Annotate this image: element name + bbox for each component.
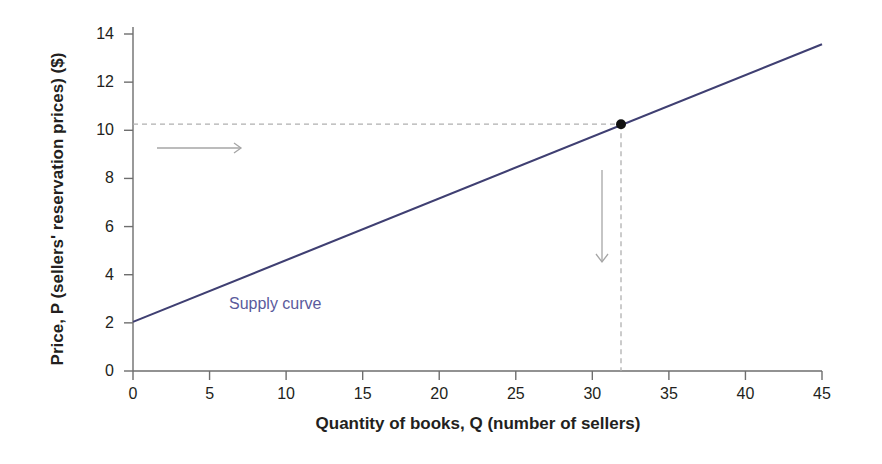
xtick-label-15: 15: [343, 385, 383, 403]
xtick-label-35: 35: [649, 385, 689, 403]
y-axis-ticks: [124, 34, 133, 371]
xtick-label-5: 5: [190, 385, 230, 403]
ytick-label-12: 12: [74, 73, 114, 91]
x-axis-ticks: [133, 371, 822, 380]
ytick-label-4: 4: [74, 266, 114, 284]
supply-curve-line: [133, 44, 822, 322]
supply-curve-label: Supply curve: [229, 295, 322, 313]
xtick-label-25: 25: [496, 385, 536, 403]
x-axis-title: Quantity of books, Q (number of sellers): [133, 414, 823, 434]
xtick-label-0: 0: [113, 385, 153, 403]
ytick-label-8: 8: [74, 169, 114, 187]
xtick-label-10: 10: [266, 385, 306, 403]
downward-arrow: [596, 170, 608, 262]
xtick-label-20: 20: [419, 385, 459, 403]
rightward-arrow: [157, 143, 241, 153]
ytick-label-0: 0: [74, 362, 114, 380]
ytick-label-2: 2: [74, 314, 114, 332]
ytick-label-14: 14: [74, 25, 114, 43]
supply-point-marker: [616, 119, 626, 129]
supply-curve-chart: 0 2 4 6 8 10 12 14 0 5 10 15 20 25 30 35…: [0, 0, 882, 464]
ytick-label-6: 6: [74, 218, 114, 236]
xtick-label-45: 45: [802, 385, 842, 403]
xtick-label-30: 30: [572, 385, 612, 403]
ytick-label-10: 10: [74, 121, 114, 139]
y-axis-title: Price, P (sellers' reservation prices) (…: [48, 0, 68, 419]
xtick-label-40: 40: [725, 385, 765, 403]
